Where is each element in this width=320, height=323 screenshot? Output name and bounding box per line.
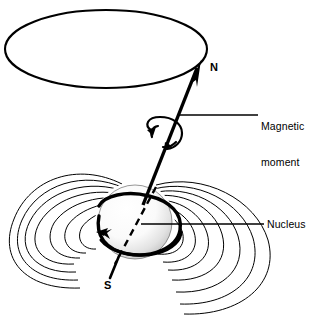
precession-cone-ellipse xyxy=(5,10,207,88)
label-north-pole: N xyxy=(210,61,218,73)
label-magnetic-moment-line2: moment xyxy=(261,156,304,168)
label-magnetic-moment: Magnetic moment xyxy=(261,96,304,192)
label-south-pole: S xyxy=(104,279,112,291)
nmr-precession-diagram: N S Magnetic moment Nucleus xyxy=(0,0,320,323)
label-magnetic-moment-line1: Magnetic xyxy=(261,120,304,132)
spin-axis-south-tail xyxy=(110,256,119,278)
label-nucleus: Nucleus xyxy=(267,218,306,230)
